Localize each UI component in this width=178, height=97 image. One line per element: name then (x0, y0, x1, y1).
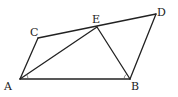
angle-mark-b (124, 74, 127, 79)
label-b: B (131, 80, 139, 93)
label-d: D (157, 6, 166, 19)
label-c: C (30, 26, 38, 39)
segment-eb (97, 27, 130, 79)
segment-bd (130, 14, 156, 79)
label-e: E (92, 13, 100, 26)
geometry-diagram: A B C E D (0, 0, 178, 97)
label-a: A (3, 80, 13, 93)
angle-mark-a (27, 75, 28, 80)
